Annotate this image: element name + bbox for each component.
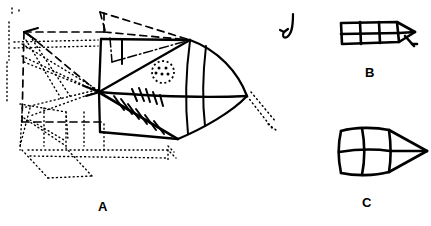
panel-b-drawing: [341, 22, 417, 46]
nose-dotted-trail: [247, 92, 276, 130]
eye-dotted-circle: [152, 61, 174, 83]
panel-b-label: B: [365, 66, 375, 79]
panel-a-dashed-construction: [22, 12, 190, 122]
panel-a-label: A: [98, 200, 108, 213]
curved-down-arrow: [280, 14, 293, 38]
panel-c-label: C: [362, 196, 372, 209]
panel-a-dotted-construction: [7, 8, 176, 178]
sketch-drawing: [0, 0, 431, 226]
figure-canvas: A B C: [0, 0, 431, 226]
panel-a-hull-ribs: [122, 39, 206, 134]
panel-c-drawing: [339, 128, 427, 175]
arrow-head-left: [24, 28, 38, 40]
